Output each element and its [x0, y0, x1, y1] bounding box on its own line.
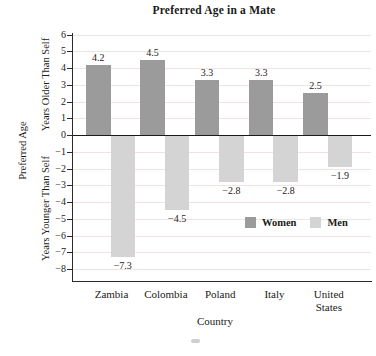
- y-tick-label: −6: [44, 230, 66, 241]
- y-tick-label: 0: [44, 129, 66, 140]
- plot-area: 4.2−7.3Zambia4.5−4.5Colombia3.3−2.8Polan…: [0, 0, 376, 356]
- value-label-men-poland: −2.8: [214, 185, 248, 196]
- bar-women-united-states: [303, 93, 328, 135]
- print-smudge-artifact: [191, 339, 200, 343]
- bar-men-colombia: [165, 135, 190, 210]
- legend-label-men: Men: [327, 217, 347, 228]
- y-axis-tick: [67, 252, 72, 253]
- legend-item-women: Women: [245, 217, 296, 228]
- y-axis-tick: [67, 118, 72, 119]
- bar-men-italy: [273, 135, 298, 182]
- x-axis-label: Country: [140, 315, 290, 327]
- legend: Women Men: [245, 217, 348, 228]
- value-label-men-colombia: −4.5: [160, 213, 194, 224]
- bar-men-poland: [219, 135, 244, 182]
- bar-men-united-states: [328, 135, 353, 167]
- y-axis-tick: [67, 51, 72, 52]
- y-axis-tick: [67, 68, 72, 69]
- y-axis-tick: [67, 202, 72, 203]
- y-tick-label: −1: [44, 146, 66, 157]
- y-axis-spine: [72, 33, 73, 281]
- value-label-women-colombia: 4.5: [136, 47, 170, 58]
- bar-men-zambia: [111, 135, 136, 257]
- y-axis-tick: [67, 219, 72, 220]
- y-tick-label: −5: [44, 213, 66, 224]
- bar-women-colombia: [140, 60, 165, 135]
- value-label-women-italy: 3.3: [244, 67, 278, 78]
- y-tick-label: 4: [44, 62, 66, 73]
- x-tick-label-poland: Poland: [193, 288, 247, 301]
- y-axis-tick: [67, 269, 72, 270]
- legend-item-men: Men: [310, 217, 347, 228]
- value-label-men-italy: −2.8: [269, 185, 303, 196]
- y-tick-label: 5: [44, 45, 66, 56]
- y-tick-label: −4: [44, 196, 66, 207]
- figure-preferred-age-in-a-mate: Preferred Age in a Mate Preferred Age Ye…: [0, 0, 376, 356]
- x-tick-label-united-states: United States: [302, 288, 356, 313]
- y-tick-label: 6: [44, 29, 66, 40]
- y-axis-tick: [67, 35, 72, 36]
- value-label-women-poland: 3.3: [190, 67, 224, 78]
- value-label-men-zambia: −7.3: [106, 260, 140, 271]
- y-tick-label: −8: [44, 263, 66, 274]
- bar-women-zambia: [86, 65, 111, 135]
- zero-axis-line: [72, 135, 371, 137]
- legend-swatch-women: [245, 217, 256, 228]
- bar-women-poland: [195, 80, 220, 135]
- y-tick-label: 1: [44, 112, 66, 123]
- x-tick-label-italy: Italy: [247, 288, 301, 301]
- y-tick-label: −2: [44, 163, 66, 174]
- x-axis-spine: [72, 281, 372, 282]
- y-tick-label: 2: [44, 96, 66, 107]
- y-axis-tick: [67, 135, 72, 136]
- value-label-women-zambia: 4.2: [81, 52, 115, 63]
- y-axis-tick: [67, 102, 72, 103]
- value-label-men-united-states: −1.9: [323, 170, 357, 181]
- x-tick-label-colombia: Colombia: [139, 288, 193, 301]
- y-axis-tick: [67, 236, 72, 237]
- y-tick-label: −7: [44, 246, 66, 257]
- y-axis-tick: [67, 169, 72, 170]
- x-tick-label-zambia: Zambia: [85, 288, 139, 301]
- y-tick-label: −3: [44, 179, 66, 190]
- y-axis-tick: [67, 85, 72, 86]
- y-axis-tick: [67, 185, 72, 186]
- y-tick-label: 3: [44, 79, 66, 90]
- y-axis-tick: [67, 152, 72, 153]
- grid-line: [72, 51, 371, 52]
- bar-women-italy: [249, 80, 274, 135]
- grid-line: [72, 35, 371, 36]
- value-label-women-united-states: 2.5: [299, 80, 333, 91]
- legend-swatch-men: [310, 217, 321, 228]
- legend-label-women: Women: [262, 217, 296, 228]
